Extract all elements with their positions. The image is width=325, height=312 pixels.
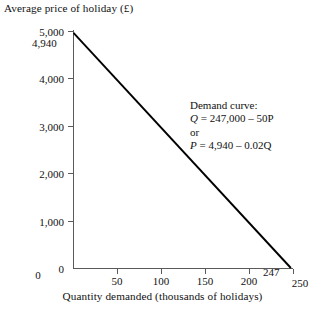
demand-curve-figure: Average price of holiday (£) 5,000 4,000… (0, 0, 325, 312)
annotation-equation-p: P = 4,940 – 0.02Q (190, 139, 274, 152)
annotation-equation-q: Q = 247,000 – 50P (190, 112, 274, 125)
annotation-p-expression: = 4,940 – 0.02Q (197, 139, 272, 151)
demand-curve-annotation: Demand curve: Q = 247,000 – 50P or P = 4… (190, 99, 274, 153)
annotation-q-variable: Q (190, 112, 198, 124)
annotation-connector: or (190, 126, 274, 139)
annotation-title: Demand curve: (190, 99, 274, 112)
x-axis-title: Quantity demanded (thousands of holidays… (0, 290, 325, 302)
annotation-p-variable: P (190, 139, 197, 151)
demand-curve-line (0, 0, 325, 312)
annotation-q-expression: = 247,000 – 50P (198, 112, 274, 124)
